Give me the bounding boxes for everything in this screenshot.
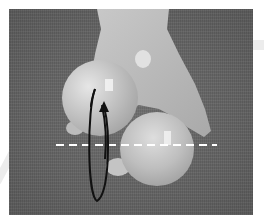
ball-left (62, 60, 138, 136)
photo-scene (9, 9, 253, 215)
photo (9, 9, 253, 215)
ball-right (120, 112, 194, 186)
watermark-stroke (252, 40, 264, 50)
